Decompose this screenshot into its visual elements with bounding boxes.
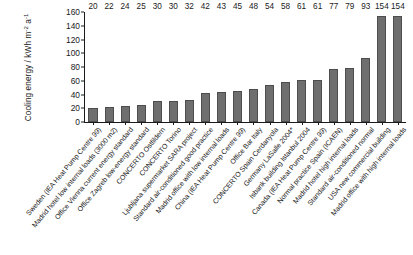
bar-value-label: 32 [185,2,194,11]
bar-slot[interactable]: 77 [326,12,342,122]
bar-slot[interactable]: 61 [294,12,310,122]
y-tick-mark [81,94,84,95]
bar[interactable]: 20 [88,108,97,122]
bar[interactable]: 30 [169,101,178,122]
bar-slot[interactable]: 42 [197,12,213,122]
x-tick-mark [221,122,222,125]
x-tick-mark [173,122,174,125]
bar-slot[interactable]: 54 [262,12,278,122]
bar-value-label: 54 [265,2,274,11]
x-tick-mark [270,122,271,125]
bar-slot[interactable]: 58 [278,12,294,122]
bar-slot[interactable]: 20 [85,12,101,122]
bar-value-label: 43 [217,2,226,11]
y-tick-label: 20 [54,103,84,113]
bar[interactable]: 61 [313,80,322,122]
bar-value-label: 30 [153,2,162,11]
y-axis-title-main: Cooling energy / kWh m [24,32,33,122]
bar-value-label: 79 [345,2,354,11]
x-axis-labels: Sweden (IEA Heat Pump Centre 99)Madrid h… [85,126,406,254]
x-tick-mark [334,122,335,125]
bar-value-label: 22 [105,2,114,11]
x-tick-mark [366,122,367,125]
bar-slot[interactable]: 30 [165,12,181,122]
y-tick-label: 100 [54,48,84,58]
y-tick-label: 0 [54,117,84,127]
bar-slot[interactable]: 43 [213,12,229,122]
bar[interactable]: 54 [265,85,274,122]
bar-slot[interactable]: 154 [390,12,406,122]
y-tick-mark [81,39,84,40]
bar-value-label: 25 [137,2,146,11]
bar-value-label: 93 [361,2,370,11]
bar-value-label: 58 [281,2,290,11]
x-tick-mark [318,122,319,125]
y-tick-label: 160 [54,7,84,17]
bar[interactable]: 58 [281,82,290,122]
bar[interactable]: 154 [393,16,402,122]
x-tick-mark [93,122,94,125]
y-axis-title-sup1: -2 [23,26,29,32]
y-axis-title-sup2: -1 [23,14,29,20]
x-tick-mark [253,122,254,125]
bar-series: 2022242530303242434548545861617779931541… [85,12,406,122]
bar[interactable]: 25 [137,105,146,122]
bar-value-label: 154 [391,2,405,11]
bar-slot[interactable]: 45 [229,12,245,122]
bar[interactable]: 45 [233,91,242,122]
bar-value-label: 77 [329,2,338,11]
bar[interactable]: 32 [185,100,194,122]
bar-slot[interactable]: 154 [374,12,390,122]
y-tick-label: 120 [54,35,84,45]
y-tick-mark [81,108,84,109]
x-tick-mark [382,122,383,125]
bar[interactable]: 43 [217,92,226,122]
x-tick-mark [350,122,351,125]
x-tick-mark [286,122,287,125]
bar-slot[interactable]: 22 [101,12,117,122]
bar[interactable]: 30 [153,101,162,122]
bar-slot[interactable]: 48 [245,12,261,122]
bar-slot[interactable]: 93 [358,12,374,122]
plot-area: 160140120100806040200 202224253030324243… [84,12,406,122]
y-tick-mark [81,12,84,13]
bar-slot[interactable]: 24 [117,12,133,122]
bar-value-label: 154 [375,2,389,11]
y-tick-label: 60 [54,76,84,86]
bar[interactable]: 48 [249,89,258,122]
bar[interactable]: 93 [361,58,370,122]
bar-slot[interactable]: 32 [181,12,197,122]
bar[interactable]: 61 [297,80,306,122]
bar-value-label: 61 [297,2,306,11]
bar-chart: Cooling energy / kWh m-2 a-1 16014012010… [0,0,413,255]
bar-value-label: 42 [201,2,210,11]
bar[interactable]: 154 [377,16,386,122]
y-tick-mark [81,53,84,54]
bar-value-label: 61 [313,2,322,11]
bar-slot[interactable]: 25 [133,12,149,122]
bar-slot[interactable]: 30 [149,12,165,122]
x-tick-mark [189,122,190,125]
bar-value-label: 48 [249,2,258,11]
x-tick-mark [109,122,110,125]
y-tick-label: 80 [54,62,84,72]
y-tick-label: 140 [54,21,84,31]
bar-value-label: 30 [169,2,178,11]
x-tick-mark [157,122,158,125]
bar[interactable]: 24 [121,106,130,123]
bar[interactable]: 79 [345,68,354,122]
x-tick-mark [237,122,238,125]
x-tick-mark [398,122,399,125]
bar[interactable]: 22 [105,107,114,122]
bar-slot[interactable]: 61 [310,12,326,122]
y-tick-mark [81,67,84,68]
bar-slot[interactable]: 79 [342,12,358,122]
bar[interactable]: 42 [201,93,210,122]
x-tick-mark [205,122,206,125]
x-tick-mark [141,122,142,125]
bar[interactable]: 77 [329,69,338,122]
y-tick-mark [81,25,84,26]
y-tick-mark [81,122,84,123]
y-tick-mark [81,80,84,81]
bar-value-label: 45 [233,2,242,11]
